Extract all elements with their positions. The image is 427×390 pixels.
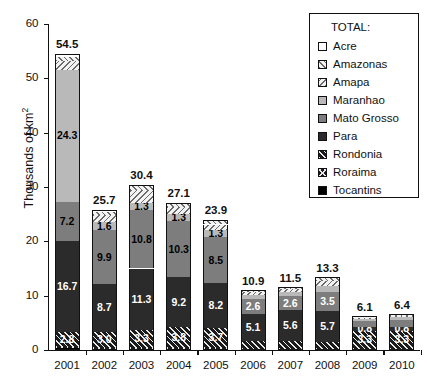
x-tick-mark: [346, 350, 347, 355]
legend-label: Maranhao: [333, 94, 385, 106]
bar-segment-acre: [315, 277, 340, 278]
bar-segment-roraima: [241, 349, 266, 350]
x-tick-label-2010: 2010: [383, 359, 420, 371]
y-axis-title-exponent: 2: [20, 108, 30, 113]
x-tick-label-2007: 2007: [272, 359, 309, 371]
segment-value-label: 5.1: [241, 322, 266, 333]
bar-segment-roraima: [352, 349, 377, 350]
legend-item-matogrosso[interactable]: Mato Grosso: [318, 110, 399, 126]
bar-segment-maranhao: [389, 317, 414, 319]
segment-value-label: 3.7: [203, 332, 228, 343]
y-tick-label: 60: [13, 17, 39, 29]
segment-value-label: 24.3: [55, 130, 80, 141]
bar-segment-amazonas: [55, 57, 80, 61]
bar-segment-amapa: [315, 281, 340, 286]
bar-segment-amazonas: [166, 204, 191, 207]
bar-2001: 2.816.77.224.354.5: [55, 54, 80, 350]
bar-2007: 5.62.611.5: [278, 288, 303, 350]
legend-item-para[interactable]: Para: [318, 128, 357, 144]
bar-segment-amapa: [203, 225, 228, 230]
bar-segment-acre: [92, 210, 117, 212]
legend-swatch-matogrosso-icon: [318, 114, 327, 123]
y-tick-label: 50: [13, 71, 39, 83]
legend-item-amazonas[interactable]: Amazonas: [318, 56, 387, 72]
bar-segment-amapa: [55, 61, 80, 70]
bar-segment-amapa: [278, 289, 303, 292]
bar-segment-roraima: [55, 347, 80, 349]
legend-swatch-amazonas-icon: [318, 60, 327, 69]
legend-label: Amapa: [333, 76, 369, 88]
bar-segment-rondonia: [241, 341, 266, 349]
bar-segment-maranhao: [278, 292, 303, 296]
bar-segment-acre: [278, 287, 303, 288]
x-tick-label-2002: 2002: [86, 359, 123, 371]
legend-item-rondonia[interactable]: Rondonia: [318, 146, 382, 162]
legend-label: Amazonas: [333, 58, 387, 70]
bar-2003: 3.311.310.81.330.4: [129, 185, 154, 350]
bar-segment-roraima: [315, 349, 340, 350]
legend: TOTAL: AcreAmazonasAmapaMaranhaoMato Gro…: [309, 13, 419, 198]
segment-value-label: 2.6: [278, 298, 303, 309]
bar-2005: 3.78.28.51.323.9: [203, 220, 228, 350]
bar-2004: 3.89.210.31.327.1: [166, 203, 191, 350]
y-tick-mark: [44, 241, 49, 242]
segment-value-label: 3.3: [129, 333, 154, 344]
chart-canvas: Thousands of km2 0102030405060 2.816.77.…: [0, 0, 427, 390]
bar-segment-rondonia: [278, 341, 303, 349]
legend-item-amapa[interactable]: Amapa: [318, 74, 369, 90]
y-tick-label: 40: [13, 126, 39, 138]
bar-total-label: 30.4: [121, 169, 162, 181]
bar-segment-tocantins: [92, 349, 117, 350]
legend-title: TOTAL:: [331, 21, 370, 33]
bar-segment-maranhao: [241, 295, 266, 299]
bar-total-label: 23.9: [195, 204, 236, 216]
segment-value-label: 3.3: [352, 334, 377, 345]
y-tick-label: 10: [13, 289, 39, 301]
bar-segment-amazonas: [129, 186, 154, 190]
bar-2002: 3.08.79.91.625.7: [92, 210, 117, 350]
legend-label: Para: [333, 130, 357, 142]
x-tick-label-2005: 2005: [197, 359, 234, 371]
bar-2009: 3.30.86.1: [352, 317, 377, 350]
x-tick-label-2008: 2008: [309, 359, 346, 371]
x-tick-mark: [235, 350, 236, 355]
bar-segment-amazonas: [92, 212, 117, 215]
segment-value-label: 8.2: [203, 300, 228, 311]
segment-value-label: 3.0: [92, 334, 117, 345]
bar-segment-amapa: [389, 316, 414, 318]
x-tick-label-2009: 2009: [346, 359, 383, 371]
x-tick-label-2006: 2006: [235, 359, 272, 371]
legend-swatch-para-icon: [318, 132, 327, 141]
bar-segment-acre: [389, 314, 414, 315]
x-tick-mark: [197, 350, 198, 355]
legend-swatch-acre-icon: [318, 42, 327, 51]
bar-segment-matogrosso: [352, 321, 377, 326]
legend-label: Mato Grosso: [333, 112, 399, 124]
bar-segment-roraima: [203, 348, 228, 349]
legend-swatch-roraima-icon: [318, 168, 327, 177]
segment-value-label: 10.3: [166, 244, 191, 255]
bar-segment-acre: [203, 220, 228, 221]
x-tick-label-2003: 2003: [123, 359, 160, 371]
bar-segment-amazonas: [315, 278, 340, 281]
segment-value-label: 9.9: [92, 252, 117, 263]
segment-value-label: 5.6: [278, 320, 303, 331]
x-tick-mark: [309, 350, 310, 355]
bar-segment-amazonas: [389, 315, 414, 316]
legend-item-acre[interactable]: Acre: [318, 38, 357, 54]
segment-value-label: 7.2: [55, 216, 80, 227]
bar-segment-tocantins: [166, 349, 191, 350]
legend-label: Tocantins: [333, 184, 382, 196]
y-tick-mark: [44, 78, 49, 79]
legend-item-tocantins[interactable]: Tocantins: [318, 182, 382, 198]
bar-segment-rondonia: [315, 342, 340, 349]
bar-segment-amapa: [241, 292, 266, 295]
bar-segment-roraima: [92, 348, 117, 349]
bar-segment-amapa: [129, 190, 154, 202]
legend-item-maranhao[interactable]: Maranhao: [318, 92, 385, 108]
legend-item-roraima[interactable]: Roraima: [318, 164, 376, 180]
x-tick-mark: [421, 350, 422, 355]
bar-total-label: 27.1: [158, 187, 199, 199]
legend-swatch-maranhao-icon: [318, 96, 327, 105]
legend-swatch-amapa-icon: [318, 78, 327, 87]
